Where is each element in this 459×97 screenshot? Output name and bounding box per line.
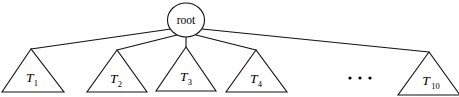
root-node-label: root <box>177 14 196 26</box>
edge-root-to-t4 <box>196 35 256 50</box>
subtree-label-t10-subscript: 10 <box>431 81 440 91</box>
subtree-label-t1-subscript: 1 <box>34 78 38 88</box>
subtree-label-t4-subscript: 4 <box>258 79 263 89</box>
tree-diagram-canvas: T1 T2 T3 T4 T10 root <box>0 0 459 97</box>
ellipsis-dot-3 <box>368 76 371 79</box>
root-node[interactable]: root <box>168 3 205 37</box>
edge-root-to-t1 <box>31 29 171 49</box>
edge-root-to-t2 <box>117 35 177 50</box>
tree-diagram: T1 T2 T3 T4 T10 root <box>0 0 459 97</box>
subtree-label-t3-subscript: 3 <box>188 77 192 87</box>
edge-group <box>31 29 429 52</box>
subtree-label-t2-subscript: 2 <box>118 79 122 89</box>
ellipsis-dot-1 <box>348 76 351 79</box>
ellipsis-indicator <box>348 76 371 79</box>
edge-root-to-t10 <box>202 29 429 52</box>
ellipsis-dot-2 <box>358 76 361 79</box>
subtree-group <box>2 47 459 95</box>
